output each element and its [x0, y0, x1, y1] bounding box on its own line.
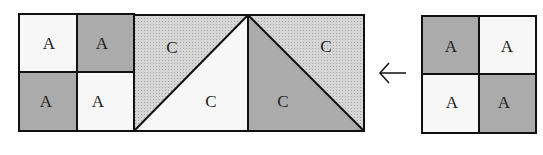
triangle-label: C	[320, 37, 331, 56]
right-four-patch: A A A A	[422, 16, 536, 133]
triangle-label: C	[277, 92, 288, 111]
triangle-unit-1: C C	[134, 15, 248, 131]
right-cell-label: A	[498, 93, 511, 112]
left-cell-label: A	[92, 92, 105, 111]
arrow-left-icon	[380, 63, 406, 83]
quilt-assembly-diagram: A A A A C C C C A A A A	[0, 0, 543, 155]
triangle-unit-2: C C	[248, 15, 364, 131]
left-cell-bottom-right	[77, 72, 134, 131]
right-cell-label: A	[501, 37, 514, 56]
left-cell-label: A	[43, 34, 56, 53]
right-cell-label: A	[445, 37, 458, 56]
triangle-label: C	[166, 38, 177, 57]
triangle-label: C	[205, 92, 216, 111]
left-cell-label: A	[96, 34, 109, 53]
left-four-patch: A A A A	[19, 14, 134, 131]
right-cell-label: A	[446, 93, 459, 112]
left-cell-label: A	[40, 92, 53, 111]
